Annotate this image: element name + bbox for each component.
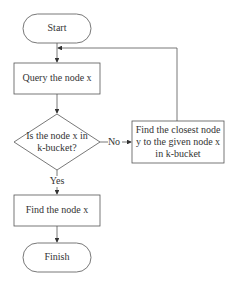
closest-label-line3: in k-bucket	[132, 148, 224, 160]
closest-label-line2: y to the given node x	[132, 136, 224, 148]
start-label: Start	[23, 22, 91, 34]
edge-loop-back	[58, 48, 177, 121]
found-label: Find the node x	[14, 204, 100, 216]
edge-yes-label: Yes	[44, 175, 70, 187]
decision-label-line2: k-bucket?	[14, 142, 100, 154]
closest-label-line1: Find the closest node	[132, 124, 224, 136]
decision-label-line1: Is the node x in	[14, 130, 100, 142]
edge-no-label: No	[104, 136, 124, 148]
query-label: Query the node x	[14, 72, 100, 84]
finish-label: Finish	[23, 251, 91, 263]
